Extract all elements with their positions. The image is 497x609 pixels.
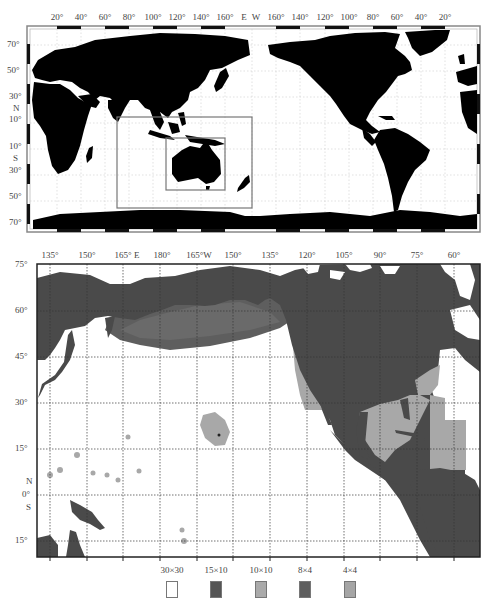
tick-label: 70° <box>9 217 22 227</box>
legend-item: 4×4 <box>330 565 370 598</box>
tick-label: 50° <box>7 65 20 75</box>
tick-label: 80° <box>123 12 136 22</box>
tick-label: 150° <box>78 250 95 260</box>
tick-label: 20° <box>51 12 64 22</box>
tick-label: 50° <box>9 191 22 201</box>
legend-swatch <box>210 581 222 598</box>
tick-label: 100° <box>144 12 161 22</box>
legend-item: 30×30 <box>152 565 192 598</box>
hemisphere-label: N <box>13 103 20 113</box>
tick-label: 180° <box>153 250 170 260</box>
legend-item: 10×10 <box>241 565 281 598</box>
tick-label: 120° <box>168 12 185 22</box>
tick-label: 120° <box>298 250 315 260</box>
tick-label: 20° <box>439 12 452 22</box>
legend-swatch <box>255 581 267 598</box>
tick-label: 160° <box>216 12 233 22</box>
tick-label: 10° <box>9 114 22 124</box>
legend-item: 8×4 <box>285 565 325 598</box>
tick-label: 75° <box>15 259 28 269</box>
tick-label: 40° <box>415 12 428 22</box>
world-map <box>27 26 480 232</box>
tick-label: 15° <box>15 443 28 453</box>
hemisphere-label: N <box>26 476 33 486</box>
tick-label: 15° <box>15 535 28 545</box>
regional-map <box>37 264 480 561</box>
tick-label: 90° <box>374 250 387 260</box>
tick-label: 80° <box>367 12 380 22</box>
legend-label: 8×4 <box>285 565 325 579</box>
tick-label: 100° <box>340 12 357 22</box>
tick-label: 70° <box>7 39 20 49</box>
legend-item: 15×10 <box>196 565 236 598</box>
tick-label: 45° <box>15 351 28 361</box>
legend-label: 30×30 <box>152 565 192 579</box>
tick-label: 0° <box>22 489 30 499</box>
hemisphere-label: S <box>26 502 31 512</box>
tick-label: 135° <box>41 250 58 260</box>
tick-label: 165° E <box>115 250 140 260</box>
tick-label: 30° <box>9 165 22 175</box>
tick-label: 140° <box>291 12 308 22</box>
tick-label: 60° <box>448 250 461 260</box>
legend-label: 15×10 <box>196 565 236 579</box>
tick-label: 160° <box>267 12 284 22</box>
hemisphere-label: S <box>13 153 18 163</box>
legend-swatch <box>299 581 311 598</box>
tick-label: 135° <box>261 250 278 260</box>
tick-label: 10° <box>9 141 22 151</box>
tick-label: 40° <box>75 12 88 22</box>
tick-label: 60° <box>15 305 28 315</box>
tick-label: 105° <box>335 250 352 260</box>
legend-label: 4×4 <box>330 565 370 579</box>
map-canvas <box>0 0 497 609</box>
tick-label: 120° <box>316 12 333 22</box>
tick-label: E <box>241 12 247 22</box>
tick-label: 75° <box>411 250 424 260</box>
legend-swatch <box>344 581 356 598</box>
tick-label: 140° <box>192 12 209 22</box>
legend-swatch <box>166 581 178 598</box>
tick-label: 150° <box>224 250 241 260</box>
tick-label: W <box>252 12 261 22</box>
tick-label: 30° <box>15 397 28 407</box>
tick-label: 165°W <box>186 250 212 260</box>
legend-label: 10×10 <box>241 565 281 579</box>
tick-label: 30° <box>9 91 22 101</box>
tick-label: 60° <box>391 12 404 22</box>
tick-label: 60° <box>99 12 112 22</box>
